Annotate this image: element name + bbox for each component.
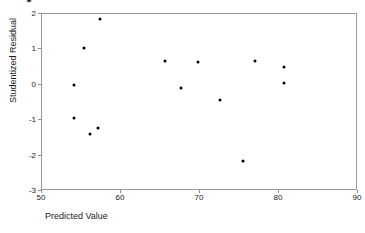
x-axis-title: Predicted Value	[45, 211, 108, 222]
data-point	[99, 18, 102, 21]
data-point	[88, 133, 91, 136]
data-point	[242, 159, 245, 162]
y-tick-label: -1	[29, 115, 36, 124]
y-tick-label: 2	[32, 9, 36, 18]
plot-area	[41, 13, 357, 190]
y-tick-mark	[38, 48, 41, 49]
y-tick-mark	[38, 119, 41, 120]
y-tick-label: -2	[29, 150, 36, 159]
data-point	[164, 60, 167, 63]
scatter-plot-figure: ● 5060708090 210-1-2-3 Predicted Value S…	[0, 0, 365, 233]
y-tick-mark	[38, 84, 41, 85]
data-point	[254, 60, 257, 63]
data-point	[82, 47, 85, 50]
y-tick-mark	[38, 13, 41, 14]
y-tick-mark	[38, 190, 41, 191]
x-tick-label: 80	[274, 193, 283, 203]
data-point	[283, 66, 286, 69]
x-tick-label: 90	[353, 193, 362, 203]
x-tick-label: 50	[37, 193, 46, 203]
x-tick-label: 70	[195, 193, 204, 203]
data-point	[96, 127, 99, 130]
clipped-glyph: ●	[26, 0, 32, 5]
data-point	[283, 82, 286, 85]
data-point	[73, 116, 76, 119]
data-point	[197, 60, 200, 63]
data-point	[73, 83, 76, 86]
y-tick-label: 0	[32, 79, 36, 88]
data-point	[179, 87, 182, 90]
y-axis-title: Studentized Residual	[8, 1, 19, 121]
y-tick-label: 1	[32, 44, 36, 53]
y-tick-mark	[38, 155, 41, 156]
y-tick-label: -3	[29, 186, 36, 195]
x-tick-label: 60	[116, 193, 125, 203]
data-point	[219, 99, 222, 102]
